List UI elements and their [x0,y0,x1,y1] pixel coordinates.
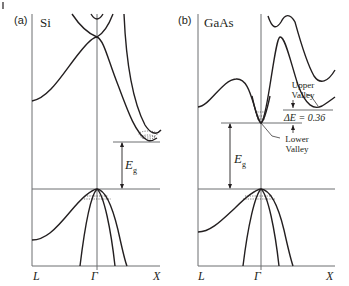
panel-a-vb-heavy-left [80,189,97,266]
panel-a-eg-label: Eg [125,159,137,177]
panel-b-axis-gamma: Γ [254,270,261,282]
panel-b-vb-light [198,189,293,266]
panel-a-cb-main [32,37,157,141]
panel-b-axis-L: L [198,270,205,282]
panel-b-delta-e-label: ΔE = 0.36 [284,112,325,124]
panel-a-tag: (a) [14,14,27,26]
panel-b-upper-valley-label: Upper Valley [285,80,321,100]
panel-b-upper-valley-line1: Upper [285,80,321,90]
panel-b-tag: (b) [178,14,191,26]
panel-b-lower-valley-line1: Lower [279,134,315,144]
panel-b-eg-label: Eg [234,153,246,171]
panel-b-lower-valley-leader [261,123,280,138]
panel-b-upper-valley-line2: Valley [285,90,321,100]
panel-b-axis-X: X [326,270,333,282]
panel-b-eg-arrow-head-bottom [228,184,232,189]
panel-b-vb-heavy-left [243,189,261,266]
panel-b-lower-valley-line2: Valley [279,144,315,154]
panel-a-vb-light [32,189,127,266]
panel-b-material: GaAs [204,17,234,29]
panel-a-axis-X: X [153,270,160,282]
panel-a-graphics [32,14,161,270]
panel-a-eg-symbol: E [125,157,133,172]
panel-b-lower-valley-label: Lower Valley [279,134,315,154]
panel-b-eg-subscript: g [242,160,246,169]
panel-a-cb-upper-left [72,14,113,37]
panel-a-vb-heavy-right [97,189,115,266]
panel-b-vb-heavy-right [261,189,279,266]
panel-a-eg-arrow-head-bottom [120,184,124,189]
panel-b-eg-symbol: E [234,151,242,166]
panel-a-axis-L: L [33,270,40,282]
panel-a-eg-subscript: g [133,166,137,175]
panel-a-axis-gamma: Γ [91,270,98,282]
panel-b-eg-arrow-head-top [228,123,232,128]
panel-b-cb-upper [268,16,335,82]
panel-a-material: Si [40,17,51,29]
panel-a-eg-arrow-head-top [120,142,124,147]
